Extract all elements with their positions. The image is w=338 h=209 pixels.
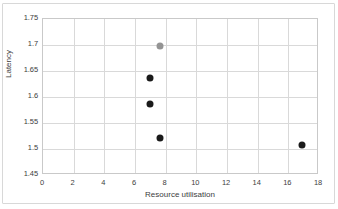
x-tick-label: 6	[122, 178, 146, 187]
gridline-horizontal	[43, 149, 317, 150]
gridline-horizontal	[43, 123, 317, 124]
x-tick-label: 12	[214, 178, 238, 187]
gridline-horizontal	[43, 71, 317, 72]
x-tick-label: 18	[306, 178, 330, 187]
y-tick-label: 1.55	[6, 117, 38, 126]
data-point	[156, 134, 163, 141]
y-tick-label: 1.75	[6, 13, 38, 22]
y-tick-label: 1.7	[6, 39, 38, 48]
x-tick-label: 16	[275, 178, 299, 187]
gridline-horizontal	[43, 97, 317, 98]
x-tick-label: 10	[183, 178, 207, 187]
scatter-chart-figure: 1.751.71.651.61.551.51.45 02468101214161…	[0, 0, 338, 209]
x-tick-label: 14	[245, 178, 269, 187]
x-tick-label: 4	[91, 178, 115, 187]
gridline-horizontal	[43, 45, 317, 46]
x-tick-label: 8	[153, 178, 177, 187]
y-axis-title: Latency	[4, 50, 13, 78]
plot-area	[42, 18, 318, 174]
y-tick-label: 1.6	[6, 91, 38, 100]
y-tick-label: 1.5	[6, 143, 38, 152]
data-point	[299, 141, 306, 148]
data-point	[147, 100, 154, 107]
x-tick-label: 0	[30, 178, 54, 187]
x-axis-title: Resource utilisation	[42, 190, 318, 199]
data-point	[147, 74, 154, 81]
x-tick-label: 2	[61, 178, 85, 187]
y-tick-label: 1.45	[6, 169, 38, 178]
data-point	[156, 42, 163, 49]
